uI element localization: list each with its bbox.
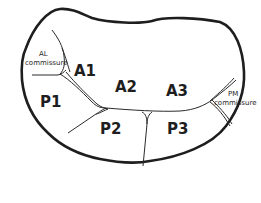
label-pm-commissure-line2: commissure bbox=[214, 99, 256, 107]
label-a3: A3 bbox=[166, 82, 188, 100]
label-al-commissure-line2: commissure bbox=[25, 59, 67, 67]
label-al-commissure-line1: AL bbox=[39, 50, 48, 58]
label-pm-commissure-line1: PM bbox=[228, 90, 238, 98]
label-p1: P1 bbox=[40, 93, 61, 111]
label-a1: A1 bbox=[74, 62, 96, 80]
label-a2: A2 bbox=[115, 78, 137, 96]
label-p2: P2 bbox=[100, 120, 121, 138]
label-p3: P3 bbox=[167, 120, 188, 138]
mitral-valve-diagram: A1 A2 A3 P1 P2 P3 AL commissure PM commi… bbox=[0, 0, 261, 203]
